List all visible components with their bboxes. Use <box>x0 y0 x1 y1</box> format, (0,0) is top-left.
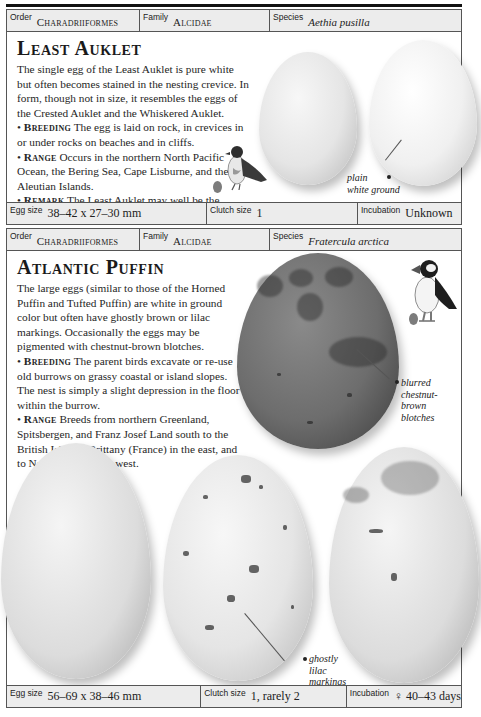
egg-image-1 <box>259 52 357 185</box>
clutch-size-label: Clutch size <box>204 686 246 698</box>
clutch-size-label: Clutch size <box>210 203 252 215</box>
species-title: Least Auklet <box>17 37 141 60</box>
order-label: Order <box>10 10 32 22</box>
incubation-label: Incubation <box>361 203 400 215</box>
clutch-size-value: 1 <box>257 206 263 221</box>
clutch-size-cell: Clutch size 1 <box>207 203 358 224</box>
bullet-icon: • <box>17 151 21 163</box>
egg-size-cell: Egg size 38–42 x 27–30 mm <box>7 203 207 224</box>
incubation-cell: Incubation Unknown <box>358 203 461 224</box>
incubation-value: ♀ 40–43 days <box>394 689 461 704</box>
egg-image-2 <box>369 40 477 186</box>
order-label: Order <box>10 229 32 241</box>
family-cell: Family Alcidae <box>140 229 270 250</box>
intro-text: The large eggs (similar to those of the … <box>17 281 247 354</box>
order-cell: Order Charadriiformes <box>7 229 140 250</box>
section-keyword: Breeding <box>24 121 71 133</box>
egg-size-label: Egg size <box>10 686 43 698</box>
clutch-size-value: 1, rarely 2 <box>251 689 300 704</box>
bullet-icon: • <box>17 413 21 425</box>
egg-image-speckled <box>163 455 313 681</box>
species-label: Species <box>273 10 303 22</box>
measurements-row: Egg size 38–42 x 27–30 mm Clutch size 1 … <box>7 202 461 224</box>
section-keyword: Range <box>24 413 57 425</box>
top-rule <box>6 4 462 7</box>
clutch-size-cell: Clutch size 1, rarely 2 <box>201 686 347 707</box>
species-cell: Species Aethia pusilla <box>270 10 461 31</box>
egg-size-label: Egg size <box>10 203 43 215</box>
bullet-icon: • <box>17 355 21 367</box>
egg-size-cell: Egg size 56–69 x 38–46 mm <box>7 686 201 707</box>
annotation-ghostly-lilac-markings: ghostly lilac markings <box>309 653 346 688</box>
family-cell: Family Alcidae <box>140 10 270 31</box>
section-keyword: Breeding <box>24 355 71 367</box>
egg-size-value: 56–69 x 38–46 mm <box>48 689 142 704</box>
egg-image-marked <box>329 447 479 683</box>
egg-size-value: 38–42 x 27–30 mm <box>48 206 142 221</box>
order-cell: Order Charadriiformes <box>7 10 140 31</box>
entry-least-auklet: Order Charadriiformes Family Alcidae Spe… <box>6 9 462 225</box>
annotation-chestnut-blotches: blurred chestnut- brown blotches <box>401 377 438 423</box>
species-cell: Species Fratercula arctica <box>270 229 461 250</box>
egg-image-dark <box>237 253 399 449</box>
species-value: Aethia pusilla <box>308 16 369 28</box>
species-label: Species <box>273 229 303 241</box>
annotation-plain-white-ground: plain white ground <box>347 172 400 195</box>
intro-text: The single egg of the Least Auklet is pu… <box>17 62 249 120</box>
description: The large eggs (similar to those of the … <box>17 281 247 471</box>
bullet-icon: • <box>17 121 21 133</box>
classification-row: Order Charadriiformes Family Alcidae Spe… <box>7 10 461 32</box>
order-value: Charadriiformes <box>37 235 118 247</box>
section-breeding: • Breeding The parent birds excavate or … <box>17 354 247 412</box>
measurements-row: Egg size 56–69 x 38–46 mm Clutch size 1,… <box>7 685 461 707</box>
annotation-dot <box>303 657 307 661</box>
family-label: Family <box>143 229 168 241</box>
egg-image-white <box>1 443 151 679</box>
section-keyword: Range <box>24 151 57 163</box>
incubation-label: Incubation <box>350 686 389 698</box>
egg-scale-icon <box>409 313 418 325</box>
family-value: Alcidae <box>173 235 212 247</box>
family-label: Family <box>143 10 168 22</box>
entry-atlantic-puffin: Order Charadriiformes Family Alcidae Spe… <box>6 228 462 708</box>
annotation-dot <box>395 380 399 384</box>
classification-row: Order Charadriiformes Family Alcidae Spe… <box>7 229 461 251</box>
incubation-cell: Incubation ♀ 40–43 days <box>347 686 461 707</box>
species-title: Atlantic Puffin <box>17 256 164 279</box>
species-value: Fratercula arctica <box>308 235 389 247</box>
egg-scale-icon <box>213 181 222 193</box>
incubation-value: Unknown <box>405 206 452 221</box>
order-value: Charadriiformes <box>37 16 118 28</box>
family-value: Alcidae <box>173 16 212 28</box>
